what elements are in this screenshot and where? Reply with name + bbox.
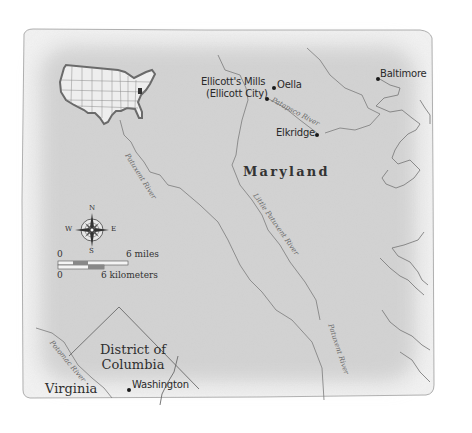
region-label-dc: District of Columbia xyxy=(88,342,178,372)
compass-south: S xyxy=(89,247,94,255)
city-dot-elkridge xyxy=(315,133,319,137)
city-label-ellicott-city: (Ellicott City) xyxy=(206,88,268,99)
city-label-oella: Oella xyxy=(277,79,302,90)
scale-km-end: 6 kilometers xyxy=(101,270,158,280)
region-label-dc-line2: Columbia xyxy=(88,357,178,372)
city-dot-ellicott-city xyxy=(265,97,269,101)
scale-miles-end: 6 miles xyxy=(126,249,159,259)
compass-north: N xyxy=(89,204,95,212)
compass-west: W xyxy=(65,225,72,233)
scale-km-start: 0 xyxy=(57,270,63,280)
city-label-elkridge: Elkridge xyxy=(276,127,315,138)
city-label-washington: Washington xyxy=(132,379,189,390)
scale-miles-start: 0 xyxy=(57,249,63,259)
maryland-highlight xyxy=(138,88,142,94)
region-label-virginia: Virginia xyxy=(45,381,97,396)
city-label-baltimore: Baltimore xyxy=(380,68,427,79)
state-label-maryland: Maryland xyxy=(243,164,330,179)
compass-east: E xyxy=(111,225,116,233)
region-label-dc-line1: District of xyxy=(88,342,178,357)
city-dot-oella xyxy=(272,86,276,90)
city-dot-washington xyxy=(127,388,131,392)
city-label-ellicotts-mills: Ellicott's Mills xyxy=(201,76,265,87)
